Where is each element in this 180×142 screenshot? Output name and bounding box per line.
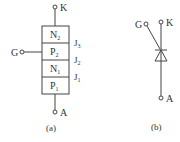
cathode-terminal-a — [53, 5, 57, 9]
symbol-labels: K G A (b) — [135, 17, 174, 132]
thyristor-symbol-diagram — [144, 20, 167, 100]
label-a-a: A — [60, 107, 68, 118]
anode-terminal-b — [159, 96, 163, 100]
layer-p2: P2 — [50, 46, 59, 58]
gate-terminal-a — [20, 50, 24, 54]
label-a-b: A — [166, 93, 174, 104]
gate-terminal-b — [144, 22, 148, 26]
layer-n1: N1 — [50, 63, 60, 75]
junction-j3: J3 — [74, 38, 81, 49]
label-g-a: G — [11, 47, 18, 58]
anode-terminal-a — [53, 110, 57, 114]
thyristor-diagram: N2 P2 N1 P1 J3 J2 J1 K G A (a) K G A (b) — [0, 0, 180, 142]
caption-a: (a) — [46, 123, 56, 133]
layer-structure-diagram — [20, 5, 69, 114]
label-k-b: K — [166, 17, 174, 28]
cathode-terminal-b — [159, 20, 163, 24]
label-g-b: G — [135, 19, 142, 30]
label-k-a: K — [60, 2, 68, 13]
layer-labels: N2 P2 N1 P1 J3 J2 J1 K G A (a) — [11, 2, 81, 133]
caption-b: (b) — [151, 122, 162, 132]
layer-p1: P1 — [50, 80, 59, 92]
junction-j2: J2 — [74, 55, 81, 66]
layer-n2: N2 — [50, 29, 60, 41]
junction-j1: J1 — [74, 72, 81, 83]
